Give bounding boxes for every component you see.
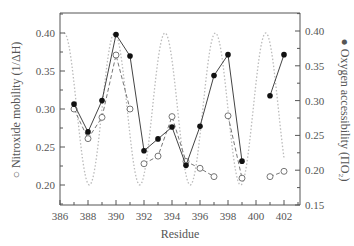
open-circle-point <box>99 114 105 120</box>
right-y-tick-label: 0.20 <box>305 164 325 176</box>
filled-circle-point <box>267 93 273 99</box>
oxygen-accessibility-series <box>71 32 287 168</box>
x-tick-label: 396 <box>192 210 209 222</box>
x-tick-label: 402 <box>276 210 293 222</box>
chart-svg: 3863883903923943963984004020.200.250.300… <box>0 0 354 246</box>
open-circle-point <box>169 114 175 120</box>
filled-circle-point <box>239 158 245 164</box>
left-y-tick-label: 0.35 <box>36 65 56 77</box>
filled-circle-point <box>281 52 287 58</box>
right-y-tick-label: 0.15 <box>305 199 325 211</box>
sinusoid-fit-line <box>64 33 284 185</box>
x-tick-label: 390 <box>108 210 125 222</box>
filled-circle-point <box>113 32 119 38</box>
left-y-tick-label: 0.20 <box>36 179 56 191</box>
x-tick-label: 394 <box>164 210 181 222</box>
x-tick-label: 400 <box>248 210 265 222</box>
open-circle-marker-icon: ○ <box>9 171 23 178</box>
filled-circle-point <box>127 53 133 59</box>
open-circle-point <box>239 175 245 181</box>
right-y-tick-label: 0.40 <box>305 25 325 37</box>
right-y-tick-label: 0.25 <box>305 129 325 141</box>
filled-circle-point <box>155 136 161 142</box>
open-circle-point <box>155 153 161 159</box>
x-axis-label: Residue <box>161 227 200 241</box>
chart: 3863883903923943963984004020.200.250.300… <box>0 0 354 246</box>
filled-circle-point <box>85 129 91 135</box>
right-y-tick-label: 0.35 <box>305 60 325 72</box>
filled-circle-point <box>141 148 147 154</box>
filled-circle-point <box>197 124 203 130</box>
left-y-axis-label: ○Nitroxide mobility (1/ΔH) <box>9 42 23 179</box>
open-circle-point <box>281 168 287 174</box>
left-y-tick-label: 0.40 <box>36 27 56 39</box>
open-circle-point <box>225 113 231 119</box>
left-y-tick-label: 0.30 <box>36 103 56 115</box>
filled-circle-point <box>71 101 77 107</box>
x-tick-label: 392 <box>136 210 153 222</box>
filled-circle-marker-icon: ● <box>338 38 352 45</box>
open-circle-point <box>141 161 147 167</box>
filled-circle-point <box>169 124 175 130</box>
x-tick-label: 388 <box>80 210 97 222</box>
open-circle-point <box>211 174 217 180</box>
open-circle-point <box>85 136 91 142</box>
filled-circle-point <box>183 163 189 169</box>
left-y-tick-label: 0.25 <box>36 141 56 153</box>
open-circle-point <box>197 165 203 171</box>
filled-circle-point <box>225 52 231 58</box>
x-tick-label: 398 <box>220 210 237 222</box>
open-circle-point <box>113 52 119 58</box>
right-y-axis-label: ●Oxygen accessibility (ΠO₂) <box>338 38 352 181</box>
filled-circle-point <box>211 73 217 79</box>
open-circle-point <box>267 174 273 180</box>
open-circle-point <box>127 106 133 112</box>
right-y-tick-label: 0.30 <box>305 95 325 107</box>
x-tick-label: 386 <box>52 210 69 222</box>
axes: 3863883903923943963984004020.200.250.300… <box>36 13 325 222</box>
filled-circle-point <box>99 98 105 104</box>
